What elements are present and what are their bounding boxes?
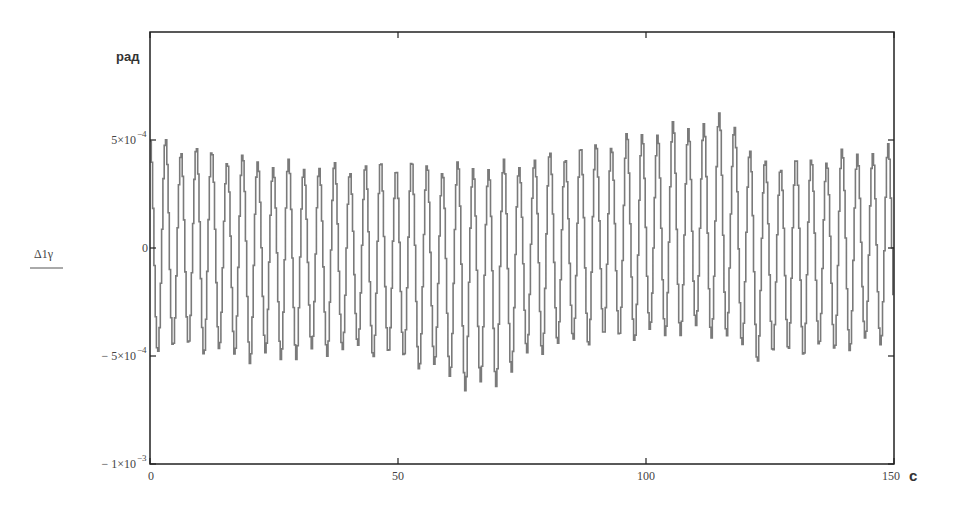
plot-area [150,113,893,391]
y-tick-exponent: −3 [137,453,147,463]
y-tick-label: 5×10 [111,133,136,147]
y-axis-label: Δ1γ [34,247,54,261]
x-tick-label: 50 [392,469,404,483]
chart: Δ1γ рад 5×10−40− 5×10−4− 1×10−3 05010015… [0,0,953,521]
x-unit-label: c [909,467,917,484]
y-tick-exponent: −4 [137,345,147,355]
y-tick-label: 0 [142,241,148,255]
y-tick-label: − 1×10 [101,457,136,471]
y-tick-label: − 5×10 [101,349,136,363]
x-tick-label: 0 [148,469,154,483]
x-axis-ticks: 050100150 [148,32,900,483]
y-unit-label: рад [116,49,140,64]
y-tick-exponent: −4 [137,129,147,139]
x-tick-label: 100 [637,469,655,483]
x-tick-label: 150 [882,469,900,483]
series-line [150,113,893,391]
